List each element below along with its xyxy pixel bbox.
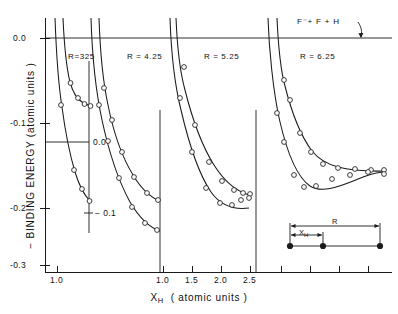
panel-3-curves bbox=[170, 18, 249, 208]
x-axis-title-units: ( atomic units ) bbox=[171, 292, 248, 303]
inset-xh-label-sub: H bbox=[304, 232, 308, 238]
panel-1-upper-curve bbox=[63, 18, 91, 106]
y-axis-title: − BINDING ENERGY (atomic units ) bbox=[25, 31, 36, 281]
plot-canvas bbox=[0, 0, 398, 314]
panel-4-curves bbox=[268, 18, 386, 189]
panel-1-lower-curve bbox=[55, 18, 90, 201]
dissociation-limit-label: F⁻+ F + H bbox=[297, 18, 340, 26]
x-axis-title-main: X bbox=[150, 292, 157, 303]
panel-2-curves bbox=[91, 18, 160, 231]
x-tick-label-p3-3: 2.0 bbox=[214, 276, 227, 285]
x-tick-label-p3-2: 1.5 bbox=[185, 276, 198, 285]
panel-label-4: R = 6.25 bbox=[300, 53, 335, 61]
inset-atom-2 bbox=[320, 243, 326, 249]
dissociation-limit-arrowhead bbox=[358, 33, 363, 38]
x-axis-title-sub: H bbox=[158, 296, 164, 305]
inset-r-label: R bbox=[332, 218, 337, 226]
inset-axis-label-bottom: − 0.1 bbox=[95, 209, 116, 218]
panel-label-3: R = 5.25 bbox=[204, 53, 239, 61]
panel-3-lower-markers bbox=[178, 96, 252, 208]
panel-2-lower-curve bbox=[91, 18, 160, 231]
panel-3-upper-markers bbox=[182, 65, 253, 197]
inset-atom-1 bbox=[287, 243, 293, 249]
figure-container: 0.0 -0.1 -0.2 -0.3 1.0 1.0 1.5 2.0 2.5 R… bbox=[0, 0, 398, 314]
panel-4-upper-curve bbox=[277, 18, 385, 171]
panel-2-upper-markers bbox=[102, 86, 161, 203]
x-tick-label-p3-4: 2.5 bbox=[243, 276, 256, 285]
x-axis-title: XH ( atomic units ) bbox=[0, 292, 398, 305]
panel-label-2: R = 4.25 bbox=[127, 53, 162, 61]
inset-xh-label: XH bbox=[299, 229, 308, 238]
panel-3-lower-curve bbox=[170, 18, 249, 208]
panel-2-upper-curve bbox=[99, 18, 160, 201]
panel-3-upper-curve bbox=[176, 18, 249, 195]
inset-atom-3 bbox=[377, 243, 383, 249]
panel-label-1: R=325 bbox=[68, 53, 95, 61]
panel-4-lower-curve bbox=[268, 18, 386, 189]
x-tick-label-p1-1: 1.0 bbox=[50, 276, 63, 285]
inset-axis-label-top: 0.0 bbox=[93, 138, 106, 147]
panel-4-lower-markers bbox=[275, 111, 387, 190]
panel-1-curves bbox=[55, 18, 91, 201]
x-tick-label-p3-1: 1.0 bbox=[156, 276, 169, 285]
